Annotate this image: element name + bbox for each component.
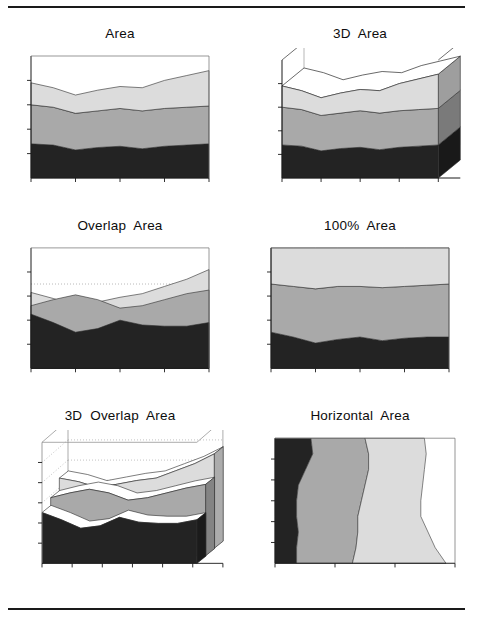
panel-title-overlap-area: Overlap Area	[0, 218, 240, 234]
panel-horizontal-area: Horizontal Area	[240, 400, 480, 596]
figure-page: Area 3D Area Overlap Area 100% Area 3D O…	[0, 0, 480, 622]
top-divider	[8, 6, 465, 8]
chart-grid: Area 3D Area Overlap Area 100% Area 3D O…	[0, 18, 480, 596]
plot-3d-area[interactable]	[240, 48, 480, 204]
plot-area[interactable]	[0, 48, 240, 204]
plot-3d-overlap-area[interactable]	[0, 430, 240, 590]
panel-title-horizontal-area: Horizontal Area	[240, 408, 480, 424]
plot-100-percent-area[interactable]	[240, 240, 480, 394]
plot-overlap-area[interactable]	[0, 240, 240, 394]
plot-horizontal-area[interactable]	[240, 430, 480, 590]
panel-area: Area	[0, 18, 240, 210]
panel-100-percent-area: 100% Area	[240, 210, 480, 400]
bottom-divider	[8, 608, 465, 610]
panel-3d-overlap-area: 3D Overlap Area	[0, 400, 240, 596]
panel-title-3d-overlap-area: 3D Overlap Area	[0, 408, 240, 424]
panel-3d-area: 3D Area	[240, 18, 480, 210]
panel-title-100-percent-area: 100% Area	[240, 218, 480, 234]
panel-title-3d-area: 3D Area	[240, 26, 480, 42]
panel-overlap-area: Overlap Area	[0, 210, 240, 400]
panel-title-area: Area	[0, 26, 240, 42]
